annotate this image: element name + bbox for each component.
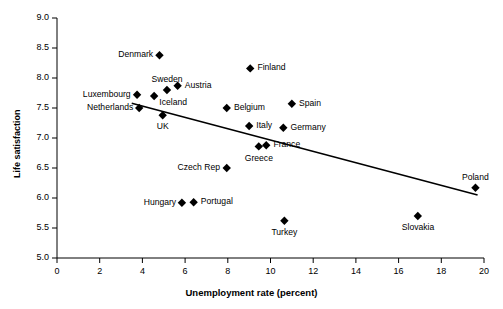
data-point-marker: [414, 212, 422, 220]
x-axis-tick-label: 0: [45, 266, 69, 276]
data-point-label: Denmark: [118, 49, 153, 59]
data-point-label: Slovakia: [402, 222, 434, 232]
y-axis-tick-label: 5.5: [15, 222, 49, 232]
y-axis-tick-label: 5.0: [15, 252, 49, 262]
x-axis-tick-label: 2: [88, 266, 112, 276]
data-point-label: Italy: [256, 120, 272, 130]
data-point-marker: [245, 122, 253, 130]
data-point-label: UK: [157, 121, 169, 131]
data-point-marker: [163, 86, 171, 94]
data-point-label: Turkey: [271, 227, 297, 237]
data-point-marker: [471, 184, 479, 192]
x-axis-tick-label: 18: [429, 266, 453, 276]
data-point-marker: [155, 51, 163, 59]
data-point-label: Iceland: [159, 97, 187, 107]
data-point-label: France: [273, 139, 300, 149]
data-point-marker: [246, 64, 254, 72]
data-point-marker: [133, 91, 141, 99]
scatter-chart: Life satisfaction Unemployment rate (per…: [0, 0, 503, 309]
data-point-marker: [178, 199, 186, 207]
data-point-label: Belgium: [234, 102, 265, 112]
y-axis-tick-label: 7.0: [15, 132, 49, 142]
data-point-label: Poland: [462, 172, 489, 182]
x-axis-tick-label: 10: [259, 266, 283, 276]
x-axis-tick-label: 4: [130, 266, 154, 276]
data-point-marker: [150, 92, 158, 100]
data-point-label: Portugal: [201, 196, 233, 206]
y-axis-tick-label: 8.0: [15, 72, 49, 82]
data-point-marker: [255, 142, 263, 150]
data-point-label: Spain: [299, 98, 321, 108]
y-axis-tick-label: 7.5: [15, 102, 49, 112]
data-point-label: Hungary: [144, 197, 176, 207]
data-point-marker: [288, 100, 296, 108]
x-axis-title: Unemployment rate (percent): [0, 287, 503, 298]
data-point-label: Germany: [291, 122, 326, 132]
y-axis-tick-label: 6.5: [15, 162, 49, 172]
data-point-label: Sweden: [151, 74, 182, 84]
x-axis-tick-label: 20: [472, 266, 496, 276]
y-axis-tick-label: 6.0: [15, 192, 49, 202]
data-point-marker: [223, 164, 231, 172]
data-point-label: Netherlands: [87, 102, 133, 112]
data-point-label: Luxembourg: [83, 89, 131, 99]
data-point-label: Finland: [257, 62, 285, 72]
trend-line: [132, 103, 478, 195]
x-axis-tick-label: 16: [387, 266, 411, 276]
data-point-marker: [279, 124, 287, 132]
x-axis-tick-label: 14: [344, 266, 368, 276]
data-point-label: Austria: [185, 80, 212, 90]
data-point-marker: [280, 217, 288, 225]
data-point-label: Czech Rep: [178, 162, 221, 172]
data-point-marker: [189, 198, 197, 206]
y-axis-tick-label: 9.0: [15, 12, 49, 22]
x-axis-tick-label: 6: [173, 266, 197, 276]
x-axis-tick-label: 12: [301, 266, 325, 276]
data-point-label: Greece: [245, 153, 273, 163]
x-axis-tick-label: 8: [216, 266, 240, 276]
data-point-marker: [223, 104, 231, 112]
data-point-marker: [262, 141, 270, 149]
y-axis-tick-label: 8.5: [15, 42, 49, 52]
